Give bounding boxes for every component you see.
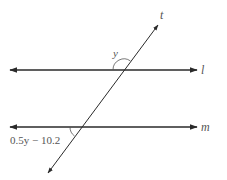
angle-arc-y — [113, 59, 131, 70]
label-t: t — [160, 9, 163, 21]
label-angle-y: y — [113, 48, 118, 59]
line-t — [48, 25, 158, 173]
label-angle-expression: 0.5y − 10.2 — [10, 135, 60, 146]
label-m: m — [201, 121, 210, 133]
diagram-canvas: t l m y 0.5y − 10.2 — [0, 0, 227, 180]
diagram-svg — [0, 0, 227, 180]
label-l: l — [201, 64, 204, 76]
angle-arc-expression — [70, 127, 75, 136]
